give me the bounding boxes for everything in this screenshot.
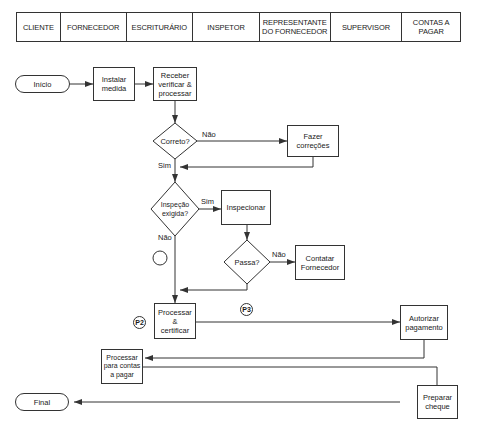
process-processar-certificar[interactable]: Processar & certificar — [154, 303, 196, 339]
label-inspecao-sim: Sim — [201, 197, 214, 206]
edge-processarcontas-preparar — [143, 367, 437, 385]
connector-circle — [153, 251, 167, 265]
decision-correto[interactable]: Correto? — [153, 134, 197, 148]
edge-autorizar-processarcontas — [145, 340, 424, 358]
edge-passa-return — [180, 283, 247, 290]
process-processar-contas[interactable]: Processar para contas a pagar — [101, 349, 143, 384]
process-preparar-cheque[interactable]: Preparar cheque — [417, 385, 458, 419]
label-inspecao-nao: Não — [158, 233, 172, 242]
edge-fazer-return — [180, 157, 313, 167]
label-correto-sim: Sim — [158, 161, 171, 170]
decision-passa[interactable]: Passa? — [226, 255, 268, 269]
decision-inspecao-exigida[interactable]: Inspeção exigida? — [151, 199, 199, 219]
process-inspecionar[interactable]: Inspecionar — [221, 190, 271, 225]
end-terminal[interactable]: Final — [15, 393, 69, 411]
marker-p2: P2 — [133, 316, 146, 329]
process-autorizar-pagamento[interactable]: Autorizar pagamento — [400, 305, 448, 340]
process-fazer-correcoes[interactable]: Fazer correções — [287, 125, 339, 157]
process-contatar-fornecedor[interactable]: Contatar Fornecedor — [295, 245, 345, 280]
process-instalar-medida[interactable]: Instalar medida — [93, 67, 135, 101]
start-terminal[interactable]: Início — [15, 75, 70, 93]
process-receber-verificar[interactable]: Receber verificar & processar — [153, 67, 197, 101]
label-passa-nao: Não — [272, 250, 286, 259]
marker-p3: P3 — [240, 303, 253, 316]
label-correto-nao: Não — [202, 130, 216, 139]
